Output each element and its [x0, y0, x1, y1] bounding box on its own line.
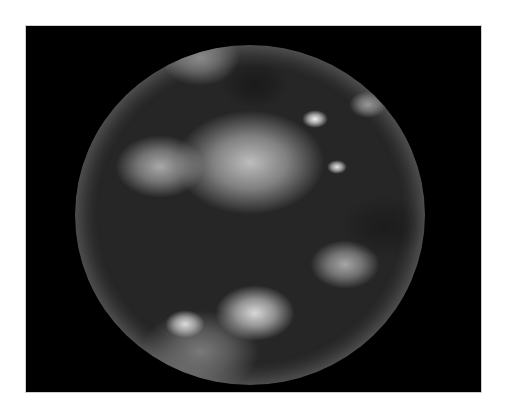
satellite-image-frame: [26, 26, 481, 392]
image-subject: Full-disk satellite view of Earth (Weste…: [0, 0, 1, 1]
earth-globe: [75, 45, 425, 385]
atmosphere-limb: [75, 45, 425, 385]
